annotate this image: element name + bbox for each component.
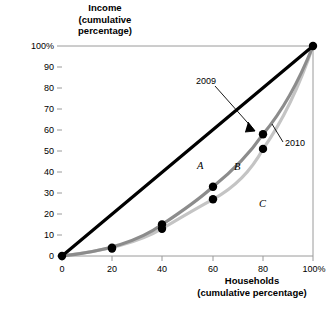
series-label-2010: 2010	[285, 138, 305, 148]
x-axis-title-line1: Households	[170, 275, 334, 287]
x-axis-title: Households (cumulative percentage)	[170, 275, 334, 298]
x-tick-100: 100%	[294, 264, 334, 274]
y-tick-100: 100%	[14, 41, 54, 51]
y-axis-ticks	[57, 46, 62, 256]
y-tick-40: 40	[14, 167, 54, 177]
chart-root: Income (cumulative percentage)	[0, 0, 334, 309]
region-label-a: A	[197, 160, 203, 171]
y-tick-90: 90	[14, 62, 54, 72]
region-label-c: C	[259, 198, 266, 209]
x-tick-80: 80	[243, 264, 283, 274]
x-tick-0: 0	[42, 264, 82, 274]
callout-leader-2009	[215, 86, 255, 132]
x-tick-60: 60	[193, 264, 233, 274]
x-tick-20: 20	[92, 264, 132, 274]
y-tick-0: 0	[14, 251, 54, 261]
y-tick-60: 60	[14, 125, 54, 135]
equality-line	[62, 46, 313, 256]
y-tick-30: 30	[14, 188, 54, 198]
y-tick-80: 80	[14, 83, 54, 93]
series-label-2009: 2009	[196, 76, 216, 86]
x-tick-40: 40	[142, 264, 182, 274]
y-tick-70: 70	[14, 104, 54, 114]
y-tick-50: 50	[14, 146, 54, 156]
y-tick-20: 20	[14, 209, 54, 219]
x-axis-ticks	[62, 256, 313, 261]
y-tick-10: 10	[14, 230, 54, 240]
region-label-b: B	[234, 161, 240, 172]
x-axis-title-line2: (cumulative percentage)	[170, 287, 334, 299]
